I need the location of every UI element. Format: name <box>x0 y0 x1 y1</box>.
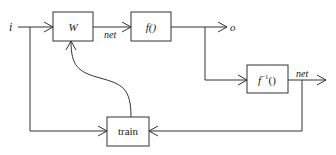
edge-net-label: net <box>104 29 116 40</box>
output-label: o <box>230 21 236 33</box>
edge-input-to-train <box>30 27 107 131</box>
node-w-label: W <box>68 21 78 33</box>
edge-train-to-w <box>71 41 131 117</box>
edge-net-out-label: net <box>296 68 308 79</box>
edge-net-to-train <box>149 80 302 131</box>
node-train-label: train <box>118 125 139 137</box>
edge-f-to-finv <box>205 27 247 80</box>
input-label: i <box>9 20 12 34</box>
node-finv-label: f−1() <box>258 73 276 87</box>
neural-training-diagram: i W net f() o f−1() net train <box>0 0 336 155</box>
node-f-label: f() <box>146 21 157 34</box>
